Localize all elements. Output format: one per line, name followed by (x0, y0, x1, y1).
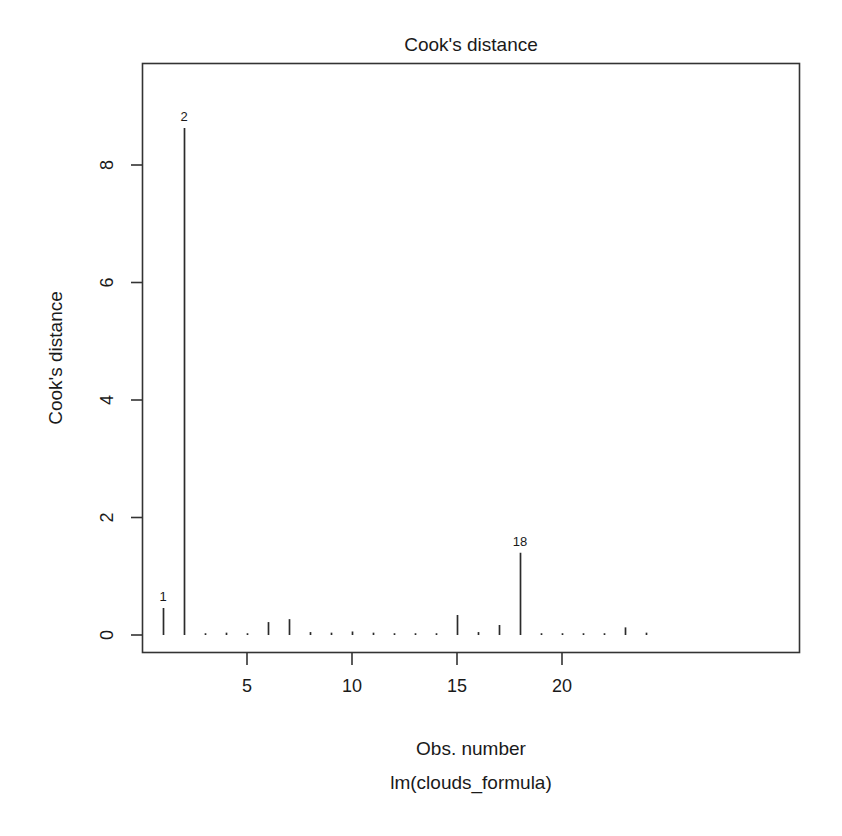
cooks-distance-plot: Cook's distance 0 2 4 6 8 (0, 0, 842, 836)
y-tick-label-3: 6 (97, 277, 117, 287)
y-tick-label-1: 2 (97, 512, 117, 522)
x-tick-label-3: 20 (552, 676, 572, 696)
y-tick-label-0: 0 (97, 630, 117, 640)
x-tick-label-1: 10 (342, 676, 362, 696)
x-tick-group-3: 20 (552, 652, 572, 696)
point-label-2: 2 (180, 109, 187, 124)
y-tick-group-2: 4 (97, 395, 142, 405)
point-label-group: 1218 (159, 109, 527, 604)
y-tick-group-4: 8 (97, 160, 142, 170)
x-axis-title: Obs. number (416, 738, 526, 759)
plot-canvas: Cook's distance 0 2 4 6 8 (0, 0, 842, 836)
plot-subtitle: lm(clouds_formula) (390, 772, 552, 794)
y-tick-label-2: 4 (97, 395, 117, 405)
x-tick-group-1: 10 (342, 652, 362, 696)
y-tick-group-0: 0 (97, 630, 142, 640)
point-label-18: 18 (513, 534, 527, 549)
plot-title: Cook's distance (404, 34, 538, 55)
y-axis: 0 2 4 6 8 (97, 160, 142, 640)
x-tick-label-2: 15 (447, 676, 467, 696)
y-tick-group-1: 2 (97, 512, 142, 522)
y-tick-label-4: 8 (97, 160, 117, 170)
x-tick-group-2: 15 (447, 652, 467, 696)
y-axis-title: Cook's distance (45, 291, 66, 425)
x-tick-group-0: 5 (242, 652, 252, 696)
point-label-1: 1 (159, 589, 166, 604)
x-tick-label-0: 5 (242, 676, 252, 696)
x-axis: 5 10 15 20 (242, 652, 572, 696)
y-tick-group-3: 6 (97, 277, 142, 287)
plot-frame (143, 64, 800, 653)
stem-series (164, 128, 647, 635)
